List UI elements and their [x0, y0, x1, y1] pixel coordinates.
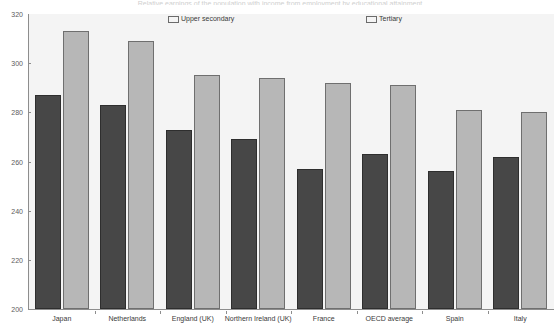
y-axis-tick-label: 240	[11, 207, 23, 214]
bar-group	[29, 14, 95, 309]
y-axis-tick-label: 200	[11, 306, 23, 313]
bar-group	[488, 14, 554, 309]
x-axis-tick-mark	[291, 311, 292, 314]
x-axis-tick-mark	[160, 311, 161, 314]
y-axis: 200220240260280300320	[0, 0, 28, 332]
chart-title-sliver: Relative earnings of the population with…	[60, 0, 500, 5]
bar-upper-secondary[interactable]	[166, 130, 192, 309]
bar-group	[95, 14, 161, 309]
bar-upper-secondary[interactable]	[35, 95, 61, 309]
bar-upper-secondary[interactable]	[231, 139, 257, 309]
bar-group	[422, 14, 488, 309]
x-axis: JapanNetherlandsEngland (UK)Northern Ire…	[29, 311, 553, 331]
bar-upper-secondary[interactable]	[493, 157, 519, 309]
x-axis-tick-mark	[357, 311, 358, 314]
bar-tertiary[interactable]	[325, 83, 351, 309]
bar-upper-secondary[interactable]	[100, 105, 126, 309]
bars-layer	[29, 14, 553, 309]
bar-group	[226, 14, 292, 309]
x-axis-tick-label: Japan	[52, 315, 71, 322]
x-axis-tick-label: Northern Ireland (UK)	[225, 315, 292, 322]
y-axis-tick-label: 300	[11, 60, 23, 67]
x-axis-tick-label: Netherlands	[108, 315, 146, 322]
bar-tertiary[interactable]	[63, 31, 89, 309]
bar-group	[160, 14, 226, 309]
y-axis-tick-label: 260	[11, 158, 23, 165]
bar-tertiary[interactable]	[259, 78, 285, 309]
bar-group	[357, 14, 423, 309]
chart-container: Relative earnings of the population with…	[0, 0, 558, 332]
bar-upper-secondary[interactable]	[428, 171, 454, 309]
bar-tertiary[interactable]	[521, 112, 547, 309]
bar-tertiary[interactable]	[194, 75, 220, 309]
y-axis-tick-label: 320	[11, 11, 23, 18]
bar-tertiary[interactable]	[456, 110, 482, 309]
x-axis-tick-label: OECD average	[366, 315, 413, 322]
x-axis-tick-mark	[422, 311, 423, 314]
bar-upper-secondary[interactable]	[297, 169, 323, 309]
x-axis-tick-label: Spain	[446, 315, 464, 322]
bar-tertiary[interactable]	[128, 41, 154, 309]
bar-tertiary[interactable]	[390, 85, 416, 309]
x-axis-tick-mark	[226, 311, 227, 314]
y-axis-tick-label: 280	[11, 109, 23, 116]
y-axis-tick-label: 220	[11, 256, 23, 263]
bar-group	[291, 14, 357, 309]
x-axis-tick-label: Italy	[514, 315, 527, 322]
bar-upper-secondary[interactable]	[362, 154, 388, 309]
x-axis-tick-mark	[488, 311, 489, 314]
x-axis-tick-mark	[95, 311, 96, 314]
x-axis-tick-label: France	[313, 315, 335, 322]
x-axis-tick-label: England (UK)	[172, 315, 214, 322]
